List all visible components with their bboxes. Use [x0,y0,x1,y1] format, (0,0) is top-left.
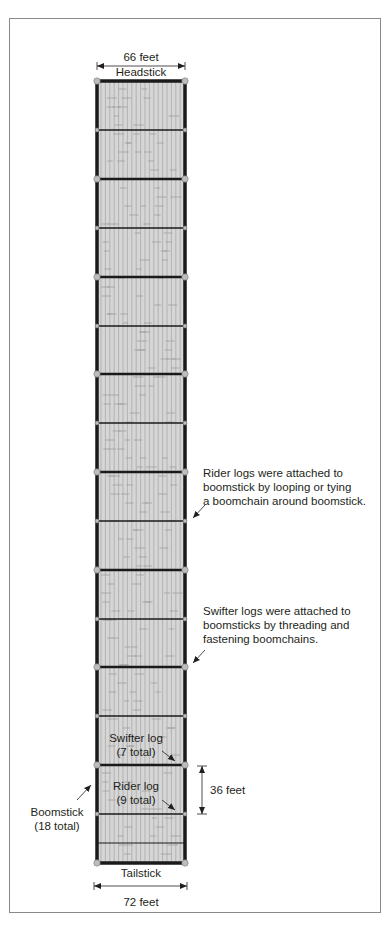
boomchain-node-icon [183,226,187,230]
boomchain-node-icon [183,519,187,523]
swifter-log-label-line: Swifter log [100,731,172,745]
boomchain-node-icon [183,324,187,328]
boomchain-node-icon [95,617,99,621]
boomstick-label-line: (18 total) [22,819,92,833]
boomchain-node-icon [182,469,188,475]
boomchain-node-icon [182,274,188,280]
rider-log-label: Rider log (9 total) [100,779,172,807]
boomchain-node-icon [94,371,100,377]
rider-note-line: Rider logs were attached to [203,466,366,480]
boomchain-node-icon [94,567,100,573]
arrow-icon [199,807,205,814]
swifter-note-line: Swifter logs were attached to [203,604,351,618]
headstick-label: Headstick [97,65,185,79]
rider-log-label-line: Rider log [100,779,172,793]
boomchain-node-icon [183,714,187,718]
boomchain-node-icon [183,812,187,816]
boomchain-node-icon [95,421,99,425]
arrow-icon [199,766,205,773]
top-dimension-label: 66 feet [97,50,185,64]
boomchain-node-icon [94,664,100,670]
boomchain-node-icon [182,567,188,573]
boomchain-node-icon [95,812,99,816]
boomchain-node-icon [182,762,188,768]
boomchain-node-icon [94,176,100,182]
boomchain-node-icon [182,176,188,182]
log-raft-diagram [0,0,392,929]
swifter-log-label: Swifter log (7 total) [100,731,172,759]
side-dimension-label: 36 feet [210,783,245,797]
boomchain-node-icon [95,128,99,132]
tailstick-label: Tailstick [97,866,185,880]
boomchain-node-icon [95,324,99,328]
rider-log-label-line: (9 total) [100,793,172,807]
rider-note-line: boomstick by looping or tying [203,480,366,494]
rider-note-line: a boomchain around boomstick. [203,494,366,508]
boomchain-node-icon [182,371,188,377]
boomchain-node-icon [182,664,188,670]
swifter-note: Swifter logs were attached to boomsticks… [203,604,351,646]
bottom-dimension-label: 72 feet [97,895,185,909]
rider-note: Rider logs were attached to boomstick by… [203,466,366,508]
swifter-note-line: boomsticks by threading and [203,618,351,632]
arrow-icon [94,883,101,889]
boomchain-node-icon [95,714,99,718]
boomchain-node-icon [94,274,100,280]
boomchain-node-icon [94,762,100,768]
boomchain-node-icon [95,226,99,230]
boomstick-label: Boomstick (18 total) [22,805,92,833]
boomchain-node-icon [183,421,187,425]
boomchain-node-icon [94,469,100,475]
boomchain-node-icon [183,617,187,621]
boomstick-label-line: Boomstick [22,805,92,819]
swifter-log-label-line: (7 total) [100,745,172,759]
swifter-note-line: fastening boomchains. [203,632,351,646]
boomchain-node-icon [183,128,187,132]
arrow-icon [180,883,187,889]
boomchain-node-icon [95,519,99,523]
